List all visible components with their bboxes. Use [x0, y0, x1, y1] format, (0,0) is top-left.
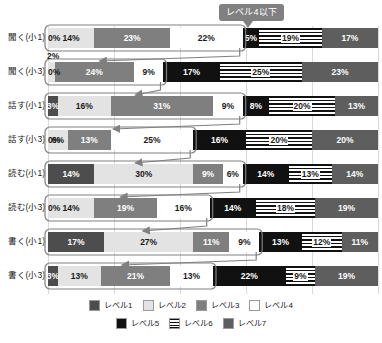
bar-segment-level-1: 3% [48, 266, 58, 286]
legend-item-level-1[interactable]: レベル1 [89, 300, 132, 311]
bar-row: 聞く(小1)0%14%23%22%5%19%17% [0, 28, 382, 50]
bar-segment-level-5: 16% [193, 130, 246, 150]
segment-value-label: 5% [245, 33, 257, 43]
bar-segment-level-5: 22% [213, 266, 286, 286]
bar-segment-level-7: 23% [302, 62, 378, 82]
segment-value-label: 11% [352, 237, 369, 247]
segment-value-label: 14% [63, 169, 80, 179]
bar-segment-level-4: 9% [229, 232, 259, 252]
bar-row: 聞く(小3)0%2%24%9%17%25%23% [0, 62, 382, 84]
bar-segment-level-7: 19% [315, 198, 378, 218]
segment-value-label: 3% [47, 271, 59, 281]
bar-segment-level-3: 13% [68, 130, 111, 150]
legend-item-level-3[interactable]: レベル3 [196, 300, 239, 311]
bar-segment-level-4: 6% [223, 164, 243, 184]
bar-segment-level-5: 13% [259, 232, 302, 252]
legend-item-level-7[interactable]: レベル7 [223, 318, 266, 329]
segment-value-label: 23% [332, 67, 349, 77]
segment-value-label: 14% [224, 203, 241, 213]
legend-swatch-icon [223, 318, 234, 329]
legend-row-1: レベル1レベル2レベル3レベル4 [0, 300, 382, 311]
bar-segment-level-2: 13% [58, 266, 101, 286]
segment-value-label: 19% [117, 203, 134, 213]
segment-value-label: 6% [52, 135, 64, 145]
stacked-bar: 0%14%23%22%5%19%17% [48, 28, 378, 48]
segment-value-label: 17% [341, 33, 358, 43]
bar-segment-level-7: 20% [312, 130, 378, 150]
bar-row: 読む(小3)0%14%19%16%14%18%19% [0, 198, 382, 220]
segment-value-label: 16% [175, 203, 192, 213]
segment-value-label: 16% [76, 101, 93, 111]
bar-row: 話す(小1)3%16%31%9%8%20%13% [0, 96, 382, 118]
bar-segment-level-7: 11% [342, 232, 378, 252]
bar-segment-level-3: 21% [101, 266, 170, 286]
bar-segment-level-7: 13% [335, 96, 378, 116]
legend-item-level-2[interactable]: レベル2 [143, 300, 186, 311]
segment-value-label: 19% [338, 271, 355, 281]
bar-segment-level-2: 6% [48, 130, 68, 150]
segment-value-label: 13% [272, 237, 289, 247]
bar-row: 書く(小1)17%27%11%9%13%12%11% [0, 232, 382, 254]
segment-value-label: 20% [336, 135, 353, 145]
bar-segment-level-4: 25% [111, 130, 194, 150]
legend-swatch-icon [116, 318, 127, 329]
bar-segment-level-6: 20% [269, 96, 335, 116]
stacked-bar: 14%30%9%6%14%13%14% [48, 164, 378, 184]
legend-label: レベル7 [238, 319, 266, 329]
legend-item-level-5[interactable]: レベル5 [116, 318, 159, 329]
segment-value-label: 0% [48, 33, 60, 43]
stacked-bar: 3%13%21%13%22%9%19% [48, 266, 378, 286]
segment-value-label: 9% [238, 237, 250, 247]
bar-row: 話す(小3)0%6%13%25%16%20%20% [0, 130, 382, 152]
plot-area: 聞く(小1)0%14%23%22%5%19%17%聞く(小3)0%2%24%9%… [0, 26, 382, 294]
legend-label: レベル3 [211, 301, 239, 311]
segment-value-label: 14% [257, 169, 274, 179]
segment-value-label: 19% [338, 203, 355, 213]
bar-row: 書く(小3)3%13%21%13%22%9%19% [0, 266, 382, 288]
row-label: 読む(小3) [0, 201, 45, 213]
bar-segment-level-1: 17% [48, 232, 104, 252]
stacked-bar: 17%27%11%9%13%12%11% [48, 232, 378, 252]
bar-segment-level-4: 13% [170, 266, 213, 286]
row-label: 話す(小3) [0, 133, 45, 145]
segment-value-label: 3% [47, 101, 59, 111]
callout-level4-and-below: レベル4以下 [219, 4, 284, 21]
bar-segment-level-4: 9% [134, 62, 164, 82]
legend-label: レベル1 [104, 301, 132, 311]
segment-value-label: 23% [124, 33, 141, 43]
legend: レベル1レベル2レベル3レベル4 レベル5レベル6レベル7 [0, 297, 382, 343]
legend-label: レベル2 [158, 301, 186, 311]
row-label: 書く(小3) [0, 269, 45, 281]
bar-segment-level-2: 27% [104, 232, 193, 252]
segment-value-label: 25% [251, 67, 270, 77]
legend-label: レベル6 [184, 319, 212, 329]
bar-row: 読む(小1)14%30%9%6%14%13%14% [0, 164, 382, 186]
stacked-bar: 0%6%13%25%16%20%20% [48, 130, 378, 150]
bar-segment-level-4: 22% [170, 28, 243, 48]
segment-value-label: 16% [211, 135, 228, 145]
legend-row-2: レベル5レベル6レベル7 [0, 318, 382, 329]
row-label: 書く(小1) [0, 235, 45, 247]
bar-segment-level-3: 11% [193, 232, 229, 252]
bar-segment-level-5: 14% [243, 164, 289, 184]
legend-label: レベル5 [131, 319, 159, 329]
segment-value-label: 13% [348, 101, 365, 111]
segment-value-label: 9% [293, 271, 307, 281]
legend-swatch-icon [169, 318, 180, 329]
bar-segment-level-7: 17% [322, 28, 378, 48]
row-label: 話す(小1) [0, 99, 45, 111]
segment-value-label: 25% [143, 135, 160, 145]
bar-segment-level-1: 3% [48, 96, 58, 116]
bar-segment-level-3: 19% [94, 198, 157, 218]
bar-segment-level-7: 14% [332, 164, 378, 184]
bar-segment-level-6: 12% [302, 232, 342, 252]
legend-item-level-6[interactable]: レベル6 [169, 318, 212, 329]
legend-item-level-4[interactable]: レベル4 [249, 300, 292, 311]
segment-value-label: 0% [48, 203, 60, 213]
segment-value-label: 9% [222, 101, 234, 111]
segment-value-label: 22% [198, 33, 215, 43]
segment-value-label: 8% [250, 101, 262, 111]
bar-segment-level-5: 5% [243, 28, 260, 48]
legend-swatch-icon [249, 300, 260, 311]
bar-segment-level-5: 8% [243, 96, 269, 116]
